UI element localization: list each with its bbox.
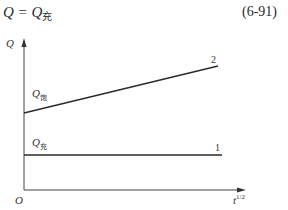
y-axis-arrow-icon <box>22 38 27 47</box>
series-2-label: Q饱 <box>32 87 47 102</box>
chart: Q O t1/2 2 Q饱 1 Q充 <box>0 0 288 210</box>
series-1-label: Q充 <box>32 136 47 151</box>
x-axis-label: t1/2 <box>233 193 246 206</box>
series-2-number-label: 2 <box>211 54 216 65</box>
x-axis-arrow-icon <box>237 188 246 193</box>
series-1-number-label: 1 <box>215 142 220 153</box>
series-2-line <box>24 66 218 113</box>
origin-label: O <box>15 194 23 206</box>
y-axis-label: Q <box>6 37 14 49</box>
